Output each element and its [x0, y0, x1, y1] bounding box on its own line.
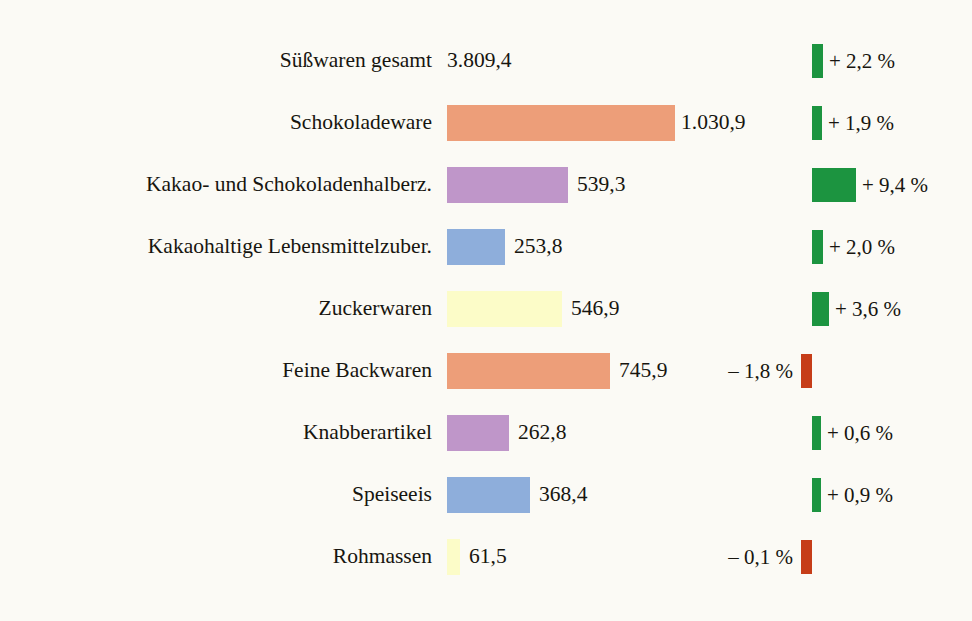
chart-row: Knabberartikel262,8+ 0,6 % [0, 402, 972, 464]
value-bar [447, 539, 460, 575]
value-bar [447, 477, 530, 513]
change-label: + 3,6 % [835, 299, 901, 320]
chart-row: Feine Backwaren745,9– 1,8 % [0, 340, 972, 402]
chart-title-strip [0, 0, 620, 6]
row-change-zone: + 1,9 % [812, 92, 972, 154]
change-label: + 2,0 % [829, 237, 895, 258]
chart-row: Zuckerwaren546,9+ 3,6 % [0, 278, 972, 340]
change-bar-positive [812, 168, 856, 202]
value-bar [447, 415, 509, 451]
chart-root: Süßwaren gesamt3.809,4+ 2,2 %Schokoladew… [0, 0, 972, 621]
row-change-zone: + 0,9 % [812, 464, 972, 526]
value-bar [447, 353, 610, 389]
value-label: 253,8 [514, 236, 562, 258]
change-label: + 9,4 % [862, 175, 928, 196]
change-bar-negative [801, 354, 812, 388]
row-change-zone: – 1,8 % [812, 340, 972, 402]
change-bar-positive [812, 292, 829, 326]
chart-rows: Süßwaren gesamt3.809,4+ 2,2 %Schokoladew… [0, 30, 972, 588]
row-change-zone: + 0,6 % [812, 402, 972, 464]
change-label: + 1,9 % [828, 113, 894, 134]
chart-row: Schokoladeware1.030,9+ 1,9 % [0, 92, 972, 154]
change-label: – 1,8 % [728, 361, 793, 382]
row-change-zone: – 0,1 % [812, 526, 972, 588]
change-bar-positive [812, 478, 821, 512]
chart-row: Kakaohaltige Lebensmittelzuber.253,8+ 2,… [0, 216, 972, 278]
value-label: 3.809,4 [447, 50, 512, 72]
value-bar [447, 167, 568, 203]
row-category-label: Knabberartikel [0, 422, 432, 444]
row-category-label: Rohmassen [0, 546, 432, 568]
value-label: 1.030,9 [681, 112, 746, 134]
value-label: 546,9 [571, 298, 619, 320]
change-bar-positive [812, 416, 821, 450]
change-label: – 0,1 % [728, 547, 793, 568]
row-category-label: Schokoladeware [0, 112, 432, 134]
value-bar [447, 229, 505, 265]
change-label: + 0,6 % [827, 423, 893, 444]
chart-row: Süßwaren gesamt3.809,4+ 2,2 % [0, 30, 972, 92]
row-change-zone: + 9,4 % [812, 154, 972, 216]
change-bar-positive [812, 44, 823, 78]
row-change-zone: + 2,2 % [812, 30, 972, 92]
row-change-zone: + 2,0 % [812, 216, 972, 278]
row-category-label: Zuckerwaren [0, 298, 432, 320]
row-change-zone: + 3,6 % [812, 278, 972, 340]
value-bar [447, 105, 675, 141]
value-label: 368,4 [539, 484, 587, 506]
row-category-label: Feine Backwaren [0, 360, 432, 382]
row-category-label: Speiseeis [0, 484, 432, 506]
value-label: 262,8 [518, 422, 566, 444]
row-category-label: Kakao- und Schokoladenhalberz. [0, 174, 432, 196]
change-bar-positive [812, 230, 823, 264]
change-label: + 0,9 % [827, 485, 893, 506]
change-label: + 2,2 % [829, 51, 895, 72]
row-category-label: Kakaohaltige Lebensmittelzuber. [0, 236, 432, 258]
change-bar-positive [812, 106, 822, 140]
chart-row: Speiseeis368,4+ 0,9 % [0, 464, 972, 526]
change-bar-negative [801, 540, 812, 574]
value-bar [447, 291, 562, 327]
chart-row: Kakao- und Schokoladenhalberz.539,3+ 9,4… [0, 154, 972, 216]
row-category-label: Süßwaren gesamt [0, 50, 432, 72]
chart-row: Rohmassen61,5– 0,1 % [0, 526, 972, 588]
value-label: 745,9 [619, 360, 667, 382]
value-label: 539,3 [577, 174, 625, 196]
value-label: 61,5 [469, 546, 507, 568]
